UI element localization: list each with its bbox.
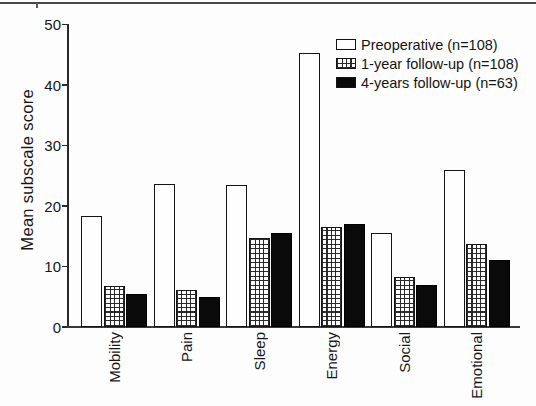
bar-sleep-preoperative bbox=[226, 185, 247, 327]
legend-swatch-preoperative bbox=[336, 39, 356, 50]
y-axis-tick bbox=[62, 266, 67, 268]
legend-label: 1-year follow-up (n=108) bbox=[361, 56, 519, 72]
y-axis-tick bbox=[62, 326, 67, 328]
legend-label: 4-years follow-up (n=63) bbox=[361, 75, 518, 91]
legend-swatch-4-years-follow-up bbox=[336, 77, 356, 88]
y-axis-tick-label: 10 bbox=[24, 258, 61, 275]
y-axis-tick-label: 40 bbox=[24, 77, 61, 94]
x-axis-label-sleep: Sleep bbox=[251, 332, 268, 370]
y-axis-tick-label: 50 bbox=[24, 16, 61, 33]
bar-sleep-4-years-follow-up bbox=[271, 233, 292, 327]
page-rule-mark bbox=[36, 3, 38, 8]
x-axis-label-social: Social bbox=[396, 332, 413, 373]
y-axis-line bbox=[67, 24, 69, 328]
bar-emotional-1-year-follow-up bbox=[466, 244, 487, 327]
y-axis-title: Mean subscale score bbox=[18, 89, 37, 251]
bar-energy-preoperative bbox=[299, 53, 320, 327]
bar-mobility-preoperative bbox=[81, 216, 102, 327]
y-axis-tick bbox=[62, 84, 67, 86]
bar-pain-1-year-follow-up bbox=[176, 290, 197, 327]
bar-emotional-4-years-follow-up bbox=[489, 260, 510, 327]
page-rule bbox=[0, 2, 536, 4]
bar-energy-4-years-follow-up bbox=[344, 224, 365, 327]
quality-of-life-bar-chart-figure: Mean subscale score 01020304050 Mobility… bbox=[0, 0, 536, 406]
legend-label: Preoperative (n=108) bbox=[361, 37, 498, 53]
x-axis-label-emotional: Emotional bbox=[468, 332, 485, 399]
bar-social-4-years-follow-up bbox=[416, 285, 437, 327]
legend-item: 4-years follow-up (n=63) bbox=[336, 73, 519, 92]
bar-mobility-4-years-follow-up bbox=[126, 294, 147, 327]
bar-social-1-year-follow-up bbox=[394, 277, 415, 327]
y-axis-tick-label: 0 bbox=[24, 319, 61, 336]
bar-energy-1-year-follow-up bbox=[321, 227, 342, 327]
bar-pain-4-years-follow-up bbox=[199, 297, 220, 327]
x-axis-label-pain: Pain bbox=[178, 332, 195, 362]
bar-mobility-1-year-follow-up bbox=[104, 286, 125, 327]
bar-emotional-preoperative bbox=[444, 170, 465, 327]
legend-item: Preoperative (n=108) bbox=[336, 35, 519, 54]
legend-item: 1-year follow-up (n=108) bbox=[336, 54, 519, 73]
bar-sleep-1-year-follow-up bbox=[249, 238, 270, 327]
y-axis-tick-label: 30 bbox=[24, 137, 61, 154]
x-axis-label-energy: Energy bbox=[323, 332, 340, 380]
y-axis-tick bbox=[62, 205, 67, 207]
y-axis-tick bbox=[62, 24, 67, 26]
bar-social-preoperative bbox=[371, 233, 392, 327]
legend: Preoperative (n=108)1-year follow-up (n=… bbox=[336, 35, 519, 92]
y-axis-tick-label: 20 bbox=[24, 198, 61, 215]
x-axis-label-mobility: Mobility bbox=[106, 332, 123, 383]
bar-pain-preoperative bbox=[154, 184, 175, 327]
y-axis-tick bbox=[62, 145, 67, 147]
legend-swatch-1-year-follow-up bbox=[336, 58, 356, 69]
